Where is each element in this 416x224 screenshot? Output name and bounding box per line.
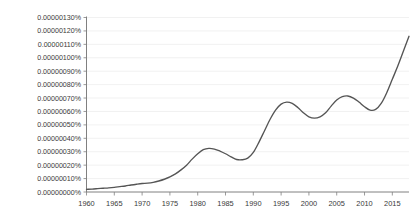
y-axis-tick-label: 0.00000120%: [37, 27, 81, 35]
y-axis-tick-label: 0.00000040%: [37, 135, 81, 143]
gridlines: [87, 18, 410, 179]
x-axis-labels: 1960196519701975198019851990199520002005…: [78, 199, 400, 208]
line-chart: 0.00000000%0.00000010%0.00000020%0.00000…: [0, 0, 416, 224]
x-axis-tick-label: 1965: [106, 199, 122, 208]
x-axis-tick-label: 1985: [217, 199, 233, 208]
y-axis-tick-label: 0.00000090%: [37, 68, 81, 76]
x-axis-tick-label: 1975: [162, 199, 178, 208]
data-series-line: [87, 36, 410, 189]
y-axis-tick-label: 0.00000030%: [37, 148, 81, 156]
y-axis-tick-label: 0.00000010%: [37, 175, 81, 183]
x-axis-tick-label: 1970: [134, 199, 150, 208]
y-axis-tick-label: 0.00000130%: [37, 14, 81, 22]
y-axis-tick-label: 0.00000000%: [37, 189, 81, 197]
y-axis-tick-label: 0.00000100%: [37, 54, 81, 62]
y-axis-tick-label: 0.00000060%: [37, 108, 81, 116]
y-axis-tick-label: 0.00000110%: [38, 41, 82, 49]
x-axis-tick-label: 1980: [189, 199, 205, 208]
x-axis-tick-label: 1960: [78, 199, 94, 208]
x-axis-tick-label: 2000: [301, 199, 317, 208]
y-axis-tick-label: 0.00000070%: [37, 95, 81, 103]
y-axis-tick-label: 0.00000080%: [37, 81, 81, 89]
y-axis-tick-label: 0.00000020%: [37, 162, 81, 170]
y-axis-labels: 0.00000000%0.00000010%0.00000020%0.00000…: [37, 14, 81, 197]
x-axis-tick-label: 1995: [273, 199, 289, 208]
x-axis-tick-label: 2005: [328, 199, 344, 208]
x-axis-tick-label: 2015: [384, 199, 400, 208]
x-axis-tick-label: 1990: [245, 199, 261, 208]
y-axis-tick-label: 0.00000050%: [37, 121, 81, 129]
x-axis-ticks: [87, 192, 393, 196]
x-axis-tick-label: 2010: [356, 199, 372, 208]
chart-container: 0.00000000%0.00000010%0.00000020%0.00000…: [0, 0, 416, 224]
